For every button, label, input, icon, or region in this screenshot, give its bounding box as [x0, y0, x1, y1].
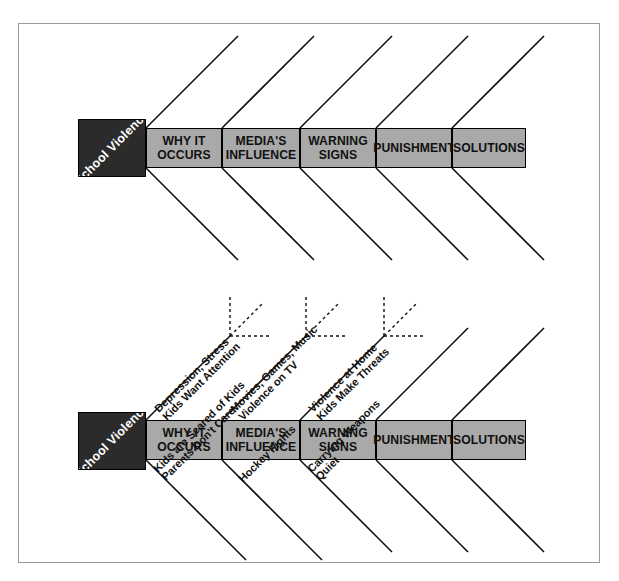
branch-up-5 — [452, 328, 544, 420]
sub-branch-diagonal — [384, 304, 416, 336]
category-box-solutions[interactable]: SOLUTIONS — [452, 420, 526, 460]
category-label-line1: SOLUTIONS — [453, 433, 525, 448]
category-label-line1: PUNISHMENT — [373, 433, 455, 448]
branch-down-5 — [452, 460, 544, 552]
branch-up-4 — [376, 328, 468, 420]
fishbone-diagram-page: School Violence WHY IT OCCURS MEDIA'S IN… — [0, 0, 619, 581]
head-label-line2: Violence — [104, 412, 146, 448]
sub-branch-diagonal — [230, 304, 262, 336]
head-box-label: School Violence — [78, 412, 146, 470]
bottom-diagram: School Violence WHY IT OCCURS MEDIA'S IN… — [0, 0, 619, 581]
category-box-punishment[interactable]: PUNISHMENT — [376, 420, 452, 460]
head-box: School Violence — [78, 412, 146, 470]
bottom-diagram-lines — [0, 0, 619, 581]
head-label-line1: School — [78, 441, 112, 470]
sub-branch-dashes-3 — [384, 296, 426, 336]
branch-down-4 — [376, 460, 468, 552]
sub-branch-dashes-1 — [230, 296, 272, 336]
